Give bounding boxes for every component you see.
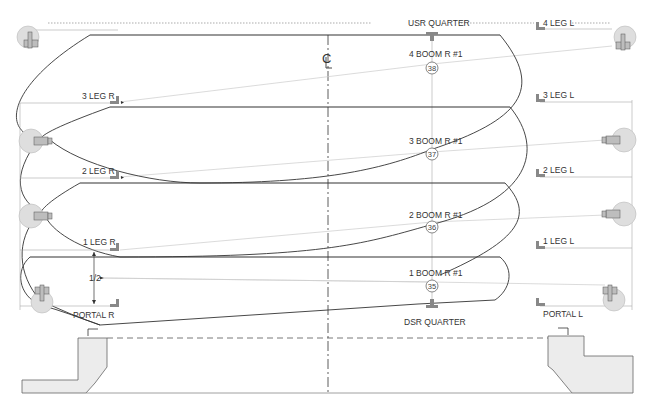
stage-right-block [548, 336, 633, 393]
curve-2-upper [40, 183, 80, 215]
portal-marker-l [536, 298, 545, 306]
fixture-right-2[interactable] [602, 202, 636, 226]
stage-left-block [22, 338, 107, 393]
stage-lip-left [88, 329, 98, 336]
unit-number-38: 38 [428, 64, 436, 73]
half-beam [104, 278, 432, 282]
portal-r-label: PORTAL R [73, 310, 114, 320]
usr-quarter-marker [426, 32, 438, 41]
portal-marker-r [110, 299, 119, 307]
portal-l-label: PORTAL L [543, 309, 583, 319]
beam-4 [120, 64, 432, 102]
half-dimension-label: 1/2 [89, 273, 101, 283]
dsr-quarter-label: DSR QUARTER [404, 317, 466, 327]
fixture-right-1[interactable] [603, 285, 625, 311]
boom-label-3: 3 BOOM R #1 [409, 136, 463, 146]
lighting-diagram: C [0, 0, 655, 407]
fixture-left-3[interactable] [19, 129, 52, 153]
leg-l-label-4: 4 LEG L [543, 18, 574, 28]
unit-number-35: 35 [428, 282, 436, 291]
leg-l-label-1: 1 LEG L [543, 236, 574, 246]
leg-r-label-2: 2 LEG R [82, 166, 115, 176]
centerline-symbol: C [322, 51, 332, 68]
usr-quarter-label: USR QUARTER [408, 18, 470, 28]
boom-label-2: 2 BOOM R #1 [409, 210, 463, 220]
curve-2-right [440, 183, 519, 275]
leg-r-label-1: 1 LEG R [83, 237, 116, 247]
fixture-right-3[interactable] [602, 128, 636, 152]
curve-3-upper [40, 107, 110, 140]
fixture-right-4[interactable] [614, 26, 636, 50]
svg-text:C: C [322, 51, 331, 66]
leg-l-label-2: 2 LEG L [543, 165, 574, 175]
boom-label-4: 4 BOOM R #1 [409, 49, 463, 59]
beam-r1 [432, 282, 605, 285]
curve-4-left [16, 35, 90, 140]
unit-number-37: 37 [428, 150, 436, 159]
fixture-left-2[interactable] [19, 204, 52, 228]
leg-l-label-3: 3 LEG L [543, 90, 574, 100]
curve-3-right [45, 107, 527, 257]
unit-number-36: 36 [428, 223, 436, 232]
stage-lip-right [558, 328, 568, 335]
beam-2 [120, 222, 432, 250]
fixture-left-1[interactable] [31, 285, 53, 313]
leg-r-label-3: 3 LEG R [82, 91, 115, 101]
fixture-left-4[interactable] [17, 26, 39, 48]
boom-label-1: 1 BOOM R #1 [409, 268, 463, 278]
